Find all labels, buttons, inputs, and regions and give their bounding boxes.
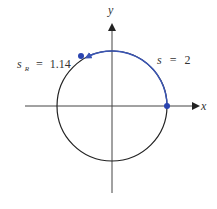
reference-var: s <box>17 57 22 71</box>
unit-circle-diagram: y x s = 2 s R = 1.14 <box>0 0 217 209</box>
start-point <box>164 103 170 109</box>
arc-s-equals-2 <box>89 51 167 106</box>
reference-subscript: R <box>24 65 30 73</box>
reference-length-label: s R = 1.14 <box>17 57 71 74</box>
arc-length-var: s <box>157 53 162 67</box>
terminal-point <box>78 53 84 59</box>
arc-direction-arrow-icon <box>87 54 94 58</box>
arc-length-value: 2 <box>184 53 190 67</box>
reference-eq: = <box>36 57 43 71</box>
x-axis-label: x <box>200 99 207 113</box>
arc-length-label: s = 2 <box>157 53 190 67</box>
y-axis-label: y <box>107 3 114 17</box>
arc-length-eq: = <box>170 53 177 67</box>
reference-value: 1.14 <box>50 57 71 71</box>
